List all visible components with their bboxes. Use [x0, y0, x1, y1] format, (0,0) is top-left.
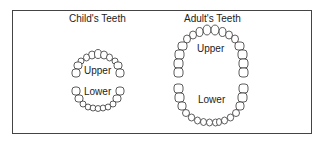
child-lower-label: Lower: [84, 86, 111, 97]
adult-lower-arch: [174, 84, 248, 126]
child-upper-label: Upper: [84, 65, 111, 76]
adult-upper-label: Upper: [197, 43, 224, 54]
adult-lower-label: Lower: [198, 94, 225, 105]
teeth-diagram: [0, 0, 323, 142]
